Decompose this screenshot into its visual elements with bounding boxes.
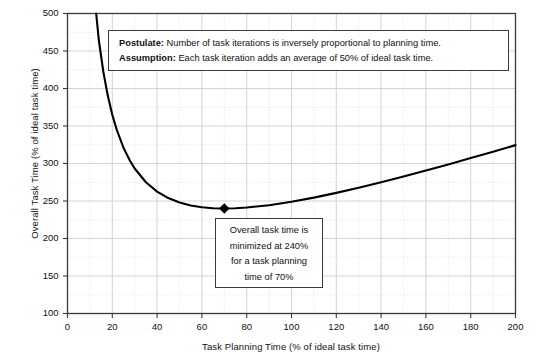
postulate-line: Postulate: Number of task iterations is … [119,36,498,51]
x-tick-label: 120 [316,321,356,332]
chart-container: Overall Task Time (% of ideal task time)… [0,0,537,362]
postulate-label: Postulate: [119,38,164,48]
x-tick-label: 20 [92,321,132,332]
x-tick-label: 80 [227,321,267,332]
assumption-label: Assumption: [119,53,176,63]
x-tick-label: 140 [361,321,401,332]
x-tick-label: 160 [406,321,446,332]
min-callout-line-1: Overall task time is [221,223,317,239]
y-tick-label: 200 [25,232,59,243]
x-tick-label: 60 [182,321,222,332]
y-tick-label: 350 [25,120,59,131]
x-axis-title: Task Planning Time (% of ideal task time… [67,341,515,352]
x-tick-label: 100 [272,321,312,332]
postulate-text: Number of task iterations is inversely p… [164,38,441,48]
min-callout-line-2: minimized at 240% [221,239,317,255]
min-callout-line-4: time of 70% [221,270,317,286]
y-tick-label: 100 [25,307,59,318]
x-tick-label: 40 [137,321,177,332]
y-tick-label: 400 [25,82,59,93]
y-tick-label: 250 [25,195,59,206]
assumption-text: Each task iteration adds an average of 5… [176,53,433,63]
assumption-line: Assumption: Each task iteration adds an … [119,51,498,66]
x-tick-label: 0 [48,321,88,332]
y-tick-label: 150 [25,270,59,281]
min-callout-line-3: for a task planning [221,254,317,270]
y-tick-label: 500 [25,7,59,18]
minimum-point-annotation: Overall task time is minimized at 240% f… [215,218,323,288]
x-tick-label: 200 [496,321,536,332]
x-tick-label: 180 [451,321,491,332]
y-tick-label: 300 [25,157,59,168]
postulate-assumption-annotation: Postulate: Number of task iterations is … [108,30,509,71]
y-tick-label: 450 [25,45,59,56]
